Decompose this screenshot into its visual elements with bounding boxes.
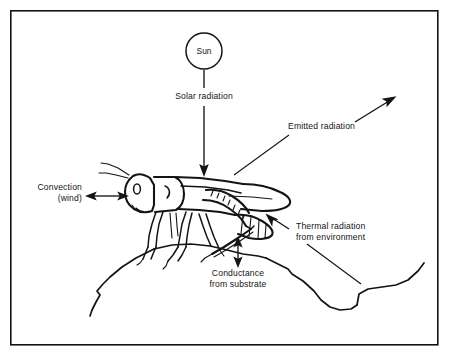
convection-label-line1: Convection (14, 182, 82, 193)
figure-canvas (0, 0, 449, 358)
solar-radiation-label: Solar radiation (154, 91, 254, 102)
conductance-label-line1: Conductance (188, 268, 288, 279)
convection-label-line2: (wind) (14, 193, 82, 204)
thermal-radiation-label-line1: Thermal radiation (296, 221, 428, 232)
conductance-label-line2: from substrate (188, 279, 288, 290)
figure-border (11, 11, 438, 345)
figure-root: Sun Solar radiation Emitted radiation Co… (0, 0, 449, 358)
emitted-radiation-label: Emitted radiation (288, 121, 398, 132)
sun-label: Sun (184, 46, 224, 56)
thermal-radiation-label-line2: from environment (296, 232, 428, 243)
